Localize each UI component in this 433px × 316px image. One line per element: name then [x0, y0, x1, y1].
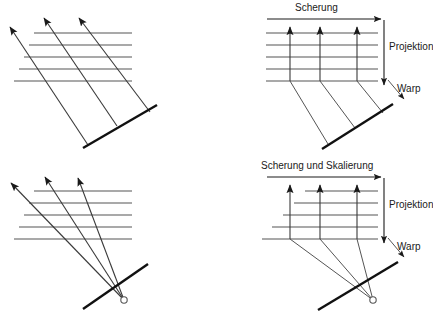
- warp-ray-bundle-bottom-right: [290, 239, 373, 300]
- warp-ray: [357, 81, 383, 113]
- slice-stack-top-left: [14, 33, 132, 81]
- label-projektion-top: Projektion: [389, 42, 433, 52]
- panel-bottom-left: [11, 177, 148, 309]
- warp-ray: [290, 239, 373, 300]
- view-ray: [44, 18, 117, 126]
- label-scherung: Scherung: [295, 3, 338, 13]
- panel-top-left: [10, 18, 157, 148]
- view-ray: [11, 183, 124, 300]
- image-plane: [322, 104, 393, 149]
- image-plane: [83, 264, 148, 309]
- label-warp-bottom: Warp: [397, 242, 421, 252]
- warp-ray: [320, 81, 355, 128]
- label-projektion-bottom: Projektion: [389, 200, 433, 210]
- view-ray: [79, 18, 150, 112]
- view-ray-bundle-bottom-right: [290, 185, 357, 239]
- label-scherung-und-skalierung: Scherung und Skalierung: [261, 161, 373, 171]
- image-plane: [318, 262, 398, 310]
- slice-stack-bottom-left: [14, 191, 132, 239]
- view-ray-bundle-top-right: [290, 27, 357, 81]
- panel-top-right: [266, 19, 404, 149]
- image-plane: [83, 105, 157, 148]
- label-warp-top: Warp: [397, 84, 421, 94]
- panel-bottom-right: [262, 177, 404, 310]
- viewpoint-marker: [370, 297, 376, 303]
- viewpoint-marker: [121, 297, 127, 303]
- warp-ray: [290, 81, 328, 144]
- slice-stack-top-right: [266, 33, 378, 81]
- warp-ray-bundle-top-right: [290, 81, 383, 144]
